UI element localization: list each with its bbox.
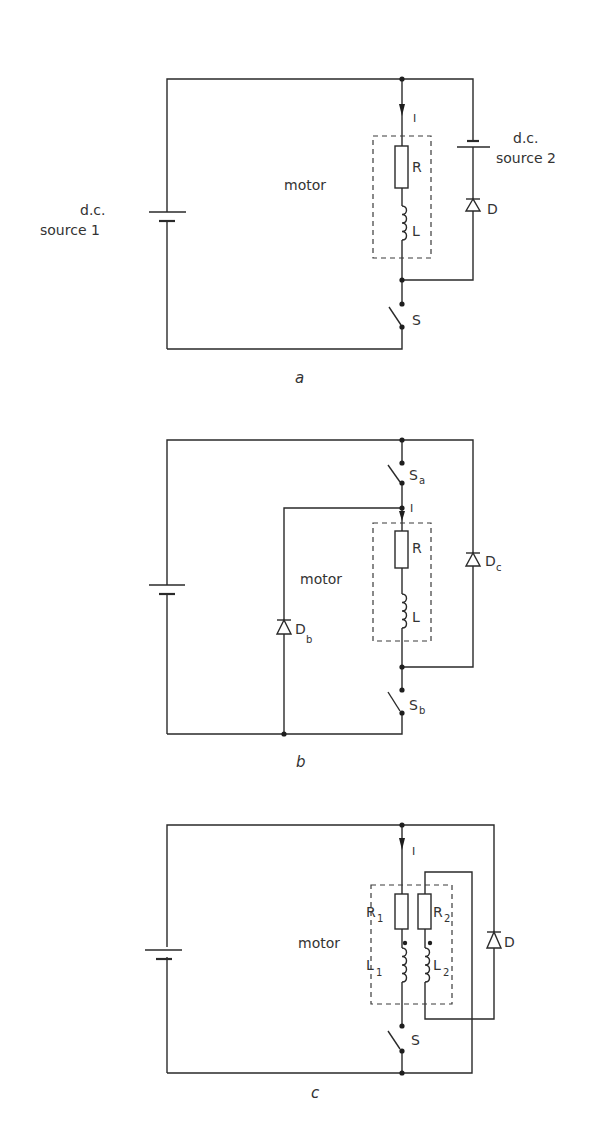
inductor-icon: [402, 594, 407, 628]
current-arrow-icon: [399, 511, 405, 521]
polarity-dot-icon: [403, 941, 407, 945]
inductor-icon: [402, 206, 407, 240]
current-arrow-icon: [399, 104, 405, 116]
battery-icon: [149, 212, 186, 221]
battery-icon: [149, 585, 185, 594]
resistor-label: R: [412, 540, 422, 556]
diode-b-label: D: [295, 621, 306, 637]
switch-icon: [389, 307, 401, 325]
switch-b-subscript: b: [419, 705, 425, 716]
resistor-2-icon: [418, 894, 431, 929]
diode-icon: [466, 199, 480, 211]
inductor-2-label: L: [433, 957, 441, 973]
inductor-1-label: L: [366, 957, 374, 973]
current-label: I: [413, 112, 416, 125]
resistor-1-subscript: 1: [377, 913, 383, 924]
battery-icon: [145, 950, 182, 959]
inductor-label: L: [412, 223, 420, 239]
inductor-1-icon: [402, 948, 407, 982]
polarity-dot-icon: [428, 941, 432, 945]
current-arrow-icon: [399, 838, 405, 850]
switch-icon: [388, 692, 400, 711]
source1-label-line2: source 1: [40, 222, 100, 238]
resistor-1-label: R: [366, 904, 376, 920]
motor-label: motor: [300, 571, 342, 587]
diode-b-subscript: b: [306, 634, 312, 645]
inductor-2-icon: [425, 948, 430, 982]
figure-a: d.c. source 1 d.c. source 2 motor I R L …: [40, 76, 556, 387]
inductor-2-subscript: 2: [443, 967, 449, 978]
diode-c-label: D: [485, 553, 496, 569]
motor-label: motor: [284, 177, 326, 193]
resistor-label: R: [412, 159, 422, 175]
motor-boundary: [371, 885, 452, 1004]
resistor-1-icon: [395, 894, 408, 929]
figure-caption: a: [295, 369, 304, 387]
diode-label: D: [487, 201, 498, 217]
circuit-diagrams: d.c. source 1 d.c. source 2 motor I R L …: [0, 0, 611, 1126]
diode-icon: [487, 932, 501, 948]
switch-a-label: S: [409, 467, 418, 483]
switch-icon: [388, 465, 400, 482]
resistor-icon: [395, 531, 408, 568]
figure-b: motor I R L S a S b D b D c b: [149, 437, 502, 771]
source2-label-line1: d.c.: [513, 130, 538, 146]
source1-label-line1: d.c.: [80, 202, 105, 218]
diode-icon: [466, 553, 480, 566]
switch-label: S: [412, 312, 421, 328]
resistor-2-subscript: 2: [444, 913, 450, 924]
figure-caption: c: [311, 1084, 320, 1102]
switch-label: S: [411, 1032, 420, 1048]
diode-label: D: [504, 934, 515, 950]
inductor-1-subscript: 1: [376, 967, 382, 978]
motor-label: motor: [298, 935, 340, 951]
resistor-2-label: R: [433, 904, 443, 920]
switch-a-subscript: a: [419, 475, 425, 486]
diode-c-subscript: c: [496, 562, 502, 573]
resistor-icon: [395, 146, 408, 188]
switch-icon: [388, 1031, 400, 1049]
wire: [167, 327, 402, 349]
battery-icon: [457, 141, 490, 147]
inductor-label: L: [412, 609, 420, 625]
figure-c: motor I R 1 R 2 L 1 L 2 D S c: [145, 822, 515, 1102]
current-label: I: [412, 845, 415, 858]
figure-caption: b: [296, 753, 306, 771]
current-label: I: [410, 502, 413, 515]
source2-label-line2: source 2: [496, 150, 556, 166]
switch-b-label: S: [409, 697, 418, 713]
diode-icon: [277, 620, 291, 634]
